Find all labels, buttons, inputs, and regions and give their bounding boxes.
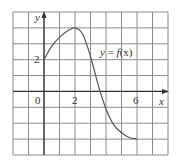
- equation-arg: (x): [120, 46, 133, 59]
- origin-label: 0: [35, 94, 41, 106]
- y-tick-2-label: 2: [34, 53, 40, 65]
- equation-equals: =: [105, 46, 117, 58]
- x-tick-6-label: 6: [133, 94, 139, 106]
- x-axis-label: x: [158, 95, 164, 107]
- function-graph: y x 0 2 6 2 y = f(x): [0, 0, 177, 163]
- curve-equation-label: y = f(x): [99, 46, 133, 59]
- x-tick-2-label: 2: [72, 94, 78, 106]
- y-axis-label: y: [34, 11, 40, 23]
- grid-lines: [13, 12, 168, 155]
